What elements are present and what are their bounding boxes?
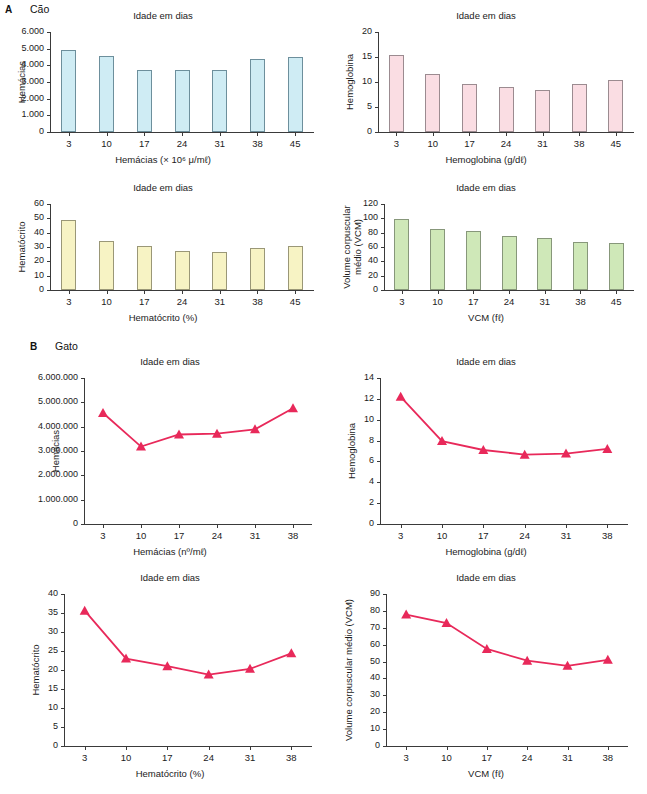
chart-cat-vcm: Idade em diasVolume corpuscular médio (V… — [330, 572, 642, 790]
data-point-marker — [288, 403, 298, 412]
bar — [137, 70, 152, 132]
y-tick-label: 40 — [368, 255, 378, 265]
y-tick-mark — [47, 247, 50, 248]
y-tick-label: 0 — [367, 126, 372, 136]
bar — [430, 229, 445, 290]
chart-dog-hemacias: Idade em diasHemáciasHemácias (× 10⁶ μ/m… — [4, 10, 322, 172]
bar — [99, 56, 114, 132]
chart-dog-hemoglobina: Idade em diasHemoglobinaHemoglobina (g/d… — [330, 10, 642, 172]
x-tick-label: 10 — [413, 138, 453, 149]
x-tick-mark — [182, 291, 183, 294]
y-tick-label: 4.000 — [21, 59, 44, 69]
y-tick-label: 5.000 — [21, 43, 44, 53]
data-point-marker — [401, 610, 411, 619]
y-tick-mark — [47, 204, 50, 205]
x-tick-mark — [144, 133, 145, 136]
x-tick-label: 3 — [49, 296, 89, 307]
y-tick-label: 10 — [362, 76, 372, 86]
panel-b: B Gato Idade em diasHemáciasHemácias (nº… — [0, 336, 647, 794]
x-tick-label: 45 — [596, 296, 636, 307]
x-tick-mark — [506, 133, 507, 136]
x-axis-label: Hemácias (× 10⁶ μ/mℓ) — [4, 154, 322, 165]
y-tick-label: 0 — [39, 284, 44, 294]
bar — [212, 252, 227, 290]
chart-dog-vcm: Idade em diasVolume corpuscular médio (V… — [330, 182, 642, 330]
bar — [535, 90, 550, 133]
x-tick-mark — [473, 291, 474, 294]
y-axis-label: Hemoglobina — [344, 22, 355, 142]
panel-b-letter: B — [30, 341, 37, 352]
x-tick-label: 38 — [560, 296, 600, 307]
y-axis-label: Hematócrito — [16, 194, 27, 300]
y-tick-mark — [381, 233, 384, 234]
line-series — [330, 356, 642, 568]
data-point-marker — [80, 606, 90, 615]
y-tick-mark — [47, 65, 50, 66]
x-tick-mark — [107, 291, 108, 294]
y-tick-mark — [47, 32, 50, 33]
x-tick-label: 3 — [382, 296, 422, 307]
chart-title: Idade em dias — [4, 182, 322, 193]
x-tick-mark — [433, 133, 434, 136]
y-tick-label: 60 — [368, 241, 378, 251]
x-tick-mark — [220, 291, 221, 294]
bar — [573, 242, 588, 290]
y-tick-mark — [375, 132, 378, 133]
y-tick-label: 5 — [367, 101, 372, 111]
y-tick-label: 20 — [34, 255, 44, 265]
y-tick-label: 10 — [34, 270, 44, 280]
bar — [466, 231, 481, 290]
x-tick-label: 45 — [275, 138, 315, 149]
y-tick-mark — [375, 107, 378, 108]
x-tick-label: 38 — [237, 138, 277, 149]
x-tick-label: 31 — [523, 138, 563, 149]
y-axis-line — [378, 32, 379, 132]
x-tick-mark — [295, 291, 296, 294]
y-tick-mark — [381, 261, 384, 262]
x-tick-mark — [579, 133, 580, 136]
y-tick-label: 0 — [373, 284, 378, 294]
y-tick-mark — [47, 82, 50, 83]
y-tick-mark — [47, 290, 50, 291]
x-tick-label: 17 — [453, 296, 493, 307]
x-tick-mark — [509, 291, 510, 294]
x-tick-mark — [69, 291, 70, 294]
chart-cat-hemoglobina: Idade em diasHemoglobinaHemoglobina (g/d… — [330, 356, 642, 568]
y-tick-label: 6.000 — [21, 26, 44, 36]
x-axis-label: VCM (fℓ) — [330, 312, 642, 323]
y-tick-label: 100 — [363, 212, 378, 222]
x-tick-label: 24 — [162, 138, 202, 149]
x-tick-label: 24 — [486, 138, 526, 149]
bar — [250, 248, 265, 290]
bar — [462, 84, 477, 133]
x-tick-mark — [438, 291, 439, 294]
y-tick-label: 30 — [34, 241, 44, 251]
x-tick-label: 31 — [200, 138, 240, 149]
y-tick-label: 1.000 — [21, 109, 44, 119]
y-axis-line — [50, 32, 51, 132]
chart-title: Idade em dias — [330, 10, 642, 21]
x-tick-label: 10 — [418, 296, 458, 307]
data-point-marker — [603, 655, 613, 664]
x-axis-label: Hematócrito (%) — [4, 312, 322, 323]
bar — [499, 87, 514, 133]
x-tick-label: 38 — [559, 138, 599, 149]
y-tick-mark — [381, 218, 384, 219]
series-line — [85, 611, 292, 675]
line-series — [14, 356, 326, 568]
x-tick-label: 10 — [87, 138, 127, 149]
y-tick-mark — [375, 57, 378, 58]
x-tick-label: 45 — [275, 296, 315, 307]
x-tick-mark — [396, 133, 397, 136]
panel-b-species-label: Gato — [55, 340, 78, 352]
bar — [394, 219, 409, 290]
x-tick-mark — [257, 291, 258, 294]
x-tick-mark — [469, 133, 470, 136]
y-tick-label: 20 — [362, 26, 372, 36]
bar — [389, 55, 404, 132]
bar — [608, 80, 623, 133]
bar — [502, 236, 517, 290]
panel-a: A Cão Idade em diasHemáciasHemácias (× 1… — [0, 0, 647, 335]
y-tick-label: 60 — [34, 198, 44, 208]
x-tick-label: 17 — [449, 138, 489, 149]
